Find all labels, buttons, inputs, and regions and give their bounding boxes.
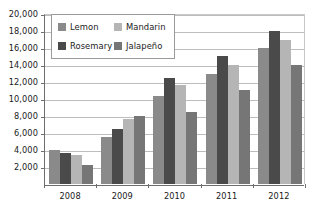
bar-chart: 20,00018,00016,00014,00012,00010,0008,00… (0, 0, 313, 214)
legend-label: Rosemary (70, 41, 112, 51)
bar (228, 65, 239, 184)
y-tick-label: 2,000 (14, 162, 38, 172)
bar (280, 40, 291, 185)
legend-label: Mandarin (126, 22, 166, 32)
legend-swatch-icon (114, 23, 122, 31)
y-tick-label: 4,000 (14, 145, 38, 155)
bar (71, 155, 82, 184)
legend-entry: Lemon (58, 22, 114, 32)
y-tick-label: 12,000 (9, 77, 38, 87)
y-tick-label: 6,000 (14, 128, 38, 138)
bar (239, 90, 250, 184)
bar (134, 116, 145, 184)
x-tick-label: 2008 (59, 191, 80, 201)
bar (123, 119, 134, 184)
x-tick-mark (305, 184, 306, 188)
chart-legend: LemonMandarinRosemaryJalapeño (51, 14, 175, 59)
y-axis: 20,00018,00016,00014,00012,00010,0008,00… (0, 0, 44, 214)
y-tick-label: 20,000 (9, 9, 38, 19)
bar (82, 165, 93, 184)
x-tick-label: 2010 (164, 191, 185, 201)
bar (269, 31, 280, 184)
x-tick-mark (253, 184, 254, 188)
legend-swatch-icon (58, 42, 66, 50)
x-tick-mark (148, 184, 149, 188)
bar (186, 112, 197, 184)
legend-entry: Mandarin (114, 22, 170, 32)
bar (217, 56, 228, 184)
bar (101, 137, 112, 184)
bar-cluster (202, 15, 254, 184)
bar (291, 65, 302, 184)
bar (60, 153, 71, 184)
y-tick-label: 10,000 (9, 94, 38, 104)
x-tick-mark (96, 184, 97, 188)
bar-cluster (254, 15, 306, 184)
y-tick-label: 16,000 (9, 43, 38, 53)
legend-label: Lemon (70, 22, 99, 32)
bar (175, 85, 186, 184)
bar (206, 74, 217, 185)
legend-entry: Rosemary (58, 41, 114, 51)
bar (49, 150, 60, 184)
x-axis: 20082009201020112012 (44, 184, 305, 214)
x-tick-mark (44, 184, 45, 188)
bar (112, 129, 123, 184)
legend-swatch-icon (58, 23, 66, 31)
y-tick-label: 8,000 (14, 111, 38, 121)
bar (153, 96, 164, 184)
x-tick-label: 2009 (112, 191, 133, 201)
bar (164, 78, 175, 184)
x-tick-mark (201, 184, 202, 188)
bar (258, 48, 269, 184)
legend-label: Jalapeño (126, 41, 162, 51)
x-tick-label: 2012 (268, 191, 289, 201)
legend-entry: Jalapeño (114, 41, 170, 51)
y-tick-label: 18,000 (9, 26, 38, 36)
x-tick-label: 2011 (216, 191, 237, 201)
legend-swatch-icon (114, 42, 122, 50)
y-tick-label: 14,000 (9, 60, 38, 70)
